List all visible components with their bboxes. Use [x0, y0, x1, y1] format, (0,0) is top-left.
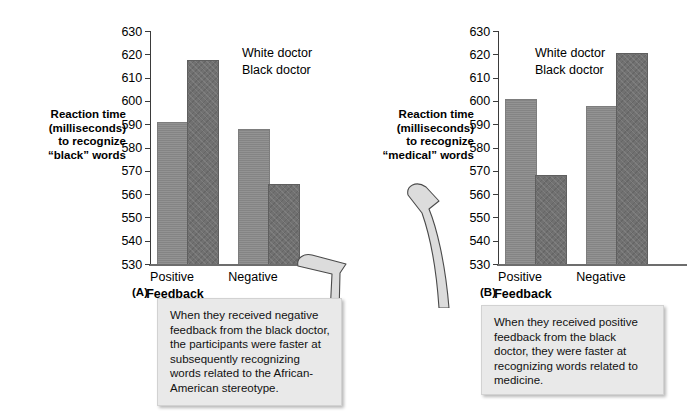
y-tick-label: 600	[121, 95, 142, 108]
x-tick-label-negative: Negative	[203, 270, 303, 284]
callout-a: When they received negative feedback fro…	[157, 298, 342, 406]
y-tick-label: 590	[121, 118, 142, 131]
y-tick: 620	[145, 54, 150, 55]
legend-b: White doctor Black doctor	[512, 47, 605, 81]
y-tick-label: 580	[469, 142, 490, 155]
y-axis-label-line: to recognize	[14, 135, 126, 149]
y-axis-line	[150, 31, 151, 264]
panel-letter-a: (A)	[132, 286, 148, 298]
y-axis-label-line: “medical” words	[362, 149, 474, 163]
y-tick: 570	[493, 171, 498, 172]
legend-swatch-black-doctor	[512, 64, 527, 77]
y-tick: 580	[493, 148, 498, 149]
y-tick-label: 570	[469, 165, 490, 178]
y-tick-label: 600	[469, 95, 490, 108]
legend-item-black-doctor: Black doctor	[512, 64, 605, 77]
y-tick-label: 540	[469, 235, 490, 248]
y-tick-label: 560	[469, 188, 490, 201]
y-tick-label: 530	[121, 258, 142, 271]
plot-area-a: 630 620 610 600 590 580 570 560 550 540 …	[150, 31, 310, 264]
y-axis-label-a: Reaction time (milliseconds) to recogniz…	[14, 108, 126, 162]
y-tick: 530	[493, 264, 498, 265]
legend-a: White doctor Black doctor	[219, 47, 312, 81]
y-tick: 540	[493, 241, 498, 242]
y-tick: 610	[493, 78, 498, 79]
y-tick-label: 570	[121, 165, 142, 178]
y-axis-label-line: Reaction time	[14, 108, 126, 122]
legend-swatch-white-doctor	[512, 47, 527, 60]
legend-item-white-doctor: White doctor	[512, 47, 605, 60]
y-axis-label-line: “black” words	[14, 149, 126, 163]
callout-b-text: When they received positive feedback fro…	[494, 315, 653, 388]
y-tick: 600	[145, 101, 150, 102]
y-tick: 590	[493, 124, 498, 125]
bar-positive-white-doctor	[157, 122, 189, 264]
y-tick: 560	[145, 194, 150, 195]
y-axis-label-line: (milliseconds)	[362, 122, 474, 136]
y-tick: 600	[493, 101, 498, 102]
legend-label-white-doctor: White doctor	[535, 47, 605, 60]
y-axis-label-b: Reaction time (milliseconds) to recogniz…	[362, 108, 474, 162]
legend-swatch-white-doctor	[219, 47, 234, 60]
plot-area-b: 630 620 610 600 590 580 570 560 550 540 …	[498, 31, 658, 264]
y-tick-label: 610	[121, 72, 142, 85]
x-axis-line	[149, 264, 339, 266]
y-tick-label: 560	[121, 188, 142, 201]
y-tick: 570	[145, 171, 150, 172]
y-axis-label-line: to recognize	[362, 135, 474, 149]
y-tick-label: 630	[121, 25, 142, 38]
y-tick: 630	[493, 31, 498, 32]
callout-a-text: When they received negative feedback fro…	[170, 308, 331, 395]
x-axis-line	[497, 264, 687, 266]
legend-label-black-doctor: Black doctor	[242, 64, 311, 77]
bar-negative-white-doctor	[586, 106, 618, 264]
y-tick-label: 530	[469, 258, 490, 271]
legend-item-black-doctor: Black doctor	[219, 64, 312, 77]
y-tick: 620	[493, 54, 498, 55]
y-axis-line	[498, 31, 499, 264]
x-tick-label-negative: Negative	[551, 270, 651, 284]
y-tick: 560	[493, 194, 498, 195]
bar-positive-black-doctor	[187, 60, 219, 264]
y-tick-label: 550	[469, 212, 490, 225]
y-tick: 550	[493, 217, 498, 218]
y-tick: 580	[145, 148, 150, 149]
bar-negative-white-doctor	[238, 129, 270, 264]
bar-negative-black-doctor	[616, 53, 648, 264]
bar-positive-black-doctor	[535, 175, 567, 265]
y-tick-label: 540	[121, 235, 142, 248]
y-tick-label: 550	[121, 212, 142, 225]
legend-label-black-doctor: Black doctor	[535, 64, 604, 77]
y-axis-label-line: (milliseconds)	[14, 122, 126, 136]
callout-b: When they received positive feedback fro…	[481, 305, 664, 395]
y-tick: 610	[145, 78, 150, 79]
y-axis-label-line: Reaction time	[362, 108, 474, 122]
y-tick-label: 610	[469, 72, 490, 85]
y-tick-label: 620	[469, 49, 490, 62]
bar-negative-black-doctor	[268, 184, 300, 264]
legend-label-white-doctor: White doctor	[242, 47, 312, 60]
bar-positive-white-doctor	[505, 99, 537, 264]
y-tick: 530	[145, 264, 150, 265]
y-tick: 550	[145, 217, 150, 218]
legend-item-white-doctor: White doctor	[219, 47, 312, 60]
y-tick-label: 590	[469, 118, 490, 131]
y-tick: 630	[145, 31, 150, 32]
y-tick-label: 620	[121, 49, 142, 62]
y-tick-label: 580	[121, 142, 142, 155]
y-tick: 590	[145, 124, 150, 125]
y-tick-label: 630	[469, 25, 490, 38]
panel-letter-b: (B)	[480, 286, 496, 298]
legend-swatch-black-doctor	[219, 64, 234, 77]
y-tick: 540	[145, 241, 150, 242]
